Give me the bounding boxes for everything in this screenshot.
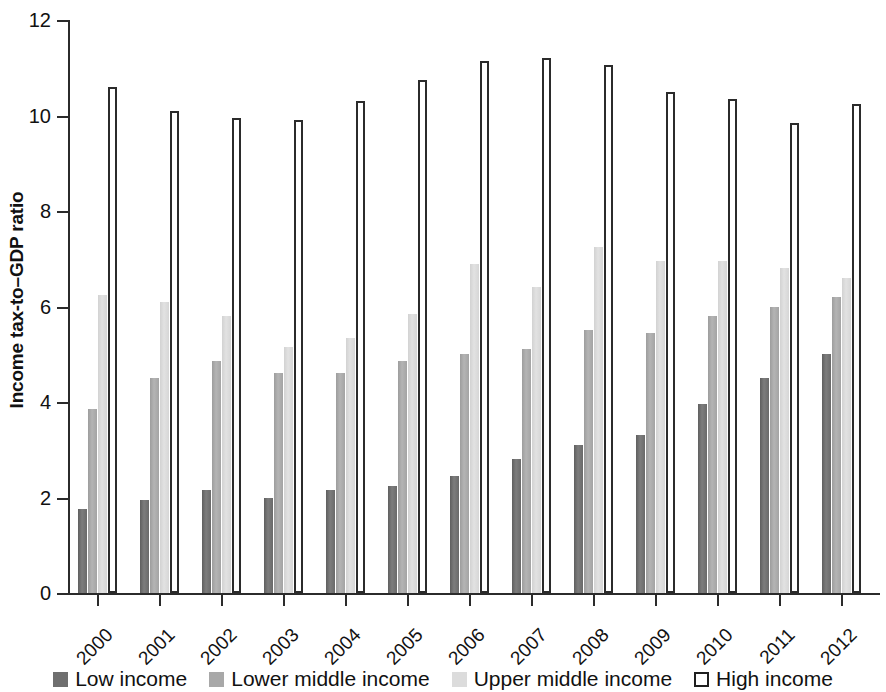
y-tick: 4 xyxy=(57,402,68,404)
legend-swatch-icon xyxy=(694,672,709,687)
bar-group xyxy=(760,20,799,593)
bar xyxy=(584,330,593,593)
y-axis-title-text: Income tax-to–GDP ratio xyxy=(6,192,28,409)
x-axis-label: 2004 xyxy=(318,624,365,671)
bar xyxy=(594,247,603,593)
bar xyxy=(140,500,149,593)
bar xyxy=(718,261,727,593)
x-axis-label: 2011 xyxy=(752,624,799,671)
x-axis-label: 2008 xyxy=(566,624,613,671)
bar-group xyxy=(574,20,613,593)
legend-swatch-icon xyxy=(53,672,68,687)
x-tick xyxy=(407,595,409,606)
x-tick xyxy=(159,595,161,606)
x-tick xyxy=(345,595,347,606)
bar-group xyxy=(202,20,241,593)
bar xyxy=(780,268,789,593)
bar xyxy=(604,65,613,593)
bar-group xyxy=(264,20,303,593)
y-tick-label: 12 xyxy=(29,9,51,32)
x-tick xyxy=(469,595,471,606)
bar xyxy=(98,295,107,593)
x-tick xyxy=(593,595,595,606)
bar xyxy=(212,361,221,593)
x-tick xyxy=(97,595,99,606)
bar xyxy=(232,118,241,593)
bar xyxy=(418,80,427,593)
legend-label: High income xyxy=(716,667,833,691)
bar xyxy=(326,490,335,593)
bar xyxy=(770,307,779,594)
y-tick-label: 6 xyxy=(40,296,51,319)
y-tick-label: 8 xyxy=(40,200,51,223)
bar xyxy=(450,476,459,593)
y-tick: 8 xyxy=(57,211,68,213)
legend-label: Low income xyxy=(75,667,187,691)
bar xyxy=(336,373,345,593)
bar xyxy=(222,316,231,593)
bar xyxy=(522,349,531,593)
legend-item[interactable]: Upper middle income xyxy=(452,667,672,691)
legend-swatch-icon xyxy=(452,672,467,687)
y-axis-line xyxy=(68,20,70,594)
y-tick-label: 0 xyxy=(40,582,51,605)
x-tick xyxy=(655,595,657,606)
x-axis-label: 2006 xyxy=(442,624,489,671)
bar xyxy=(408,314,417,593)
bar xyxy=(160,302,169,593)
bar xyxy=(170,111,179,593)
bar xyxy=(822,354,831,593)
bar xyxy=(346,338,355,593)
y-tick: 6 xyxy=(57,307,68,309)
bar xyxy=(574,445,583,593)
legend-item[interactable]: Lower middle income xyxy=(209,667,429,691)
x-axis-line xyxy=(68,593,880,595)
bar xyxy=(790,123,799,593)
bar xyxy=(88,409,97,593)
bar xyxy=(150,378,159,593)
bar-group xyxy=(822,20,861,593)
bar xyxy=(264,498,273,594)
x-axis-label: 2003 xyxy=(256,624,303,671)
y-tick: 12 xyxy=(57,20,68,22)
x-axis-label: 2010 xyxy=(690,624,737,671)
bar xyxy=(294,120,303,593)
bar xyxy=(532,287,541,593)
x-tick xyxy=(779,595,781,606)
x-axis-label: 2005 xyxy=(380,624,427,671)
bar-group xyxy=(326,20,365,593)
y-tick: 2 xyxy=(57,498,68,500)
bar xyxy=(398,361,407,593)
bar-group xyxy=(78,20,117,593)
x-tick xyxy=(841,595,843,606)
x-tick xyxy=(221,595,223,606)
x-axis-label: 2002 xyxy=(194,624,241,671)
bar xyxy=(852,104,861,593)
bar xyxy=(284,347,293,593)
bar xyxy=(760,378,769,593)
bar xyxy=(656,261,665,593)
y-tick-label: 2 xyxy=(40,487,51,510)
bar xyxy=(842,278,851,593)
legend-item[interactable]: High income xyxy=(694,667,833,691)
chart-legend: Low incomeLower middle incomeUpper middl… xyxy=(0,666,886,692)
x-tick xyxy=(283,595,285,606)
bar xyxy=(202,490,211,593)
bar xyxy=(728,99,737,593)
legend-item[interactable]: Low income xyxy=(53,667,187,691)
y-tick: 10 xyxy=(57,116,68,118)
x-tick xyxy=(717,595,719,606)
bar-chart-figure: Income tax-to–GDP ratio 024681012 200020… xyxy=(0,0,886,692)
bar xyxy=(512,459,521,593)
y-tick-label: 10 xyxy=(29,105,51,128)
bar xyxy=(480,61,489,593)
y-tick: 0 xyxy=(57,593,68,595)
bar-group xyxy=(388,20,427,593)
bar xyxy=(274,373,283,593)
plot-area: 024681012 200020012002200320042005200620… xyxy=(74,20,880,593)
legend-swatch-icon xyxy=(209,672,224,687)
bar xyxy=(666,92,675,593)
x-axis-label: 2001 xyxy=(132,624,179,671)
bar xyxy=(108,87,117,593)
x-axis-label: 2009 xyxy=(628,624,675,671)
